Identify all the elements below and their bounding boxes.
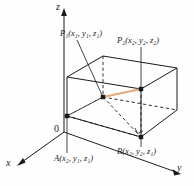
point-marker-b <box>139 135 143 139</box>
segment-p1-to-b <box>103 97 141 137</box>
point-label-p1: P₁(x₁, y₁, z₁) <box>60 29 102 38</box>
box-edge-top-back <box>103 56 177 68</box>
point-marker-a <box>65 114 69 118</box>
segment-p1-to-p2-highlight <box>103 89 141 97</box>
box-edge-bottom-right-slant <box>141 110 177 137</box>
point-label-p2: P₂(x₂, y₂, z₂) <box>117 36 159 45</box>
x-axis-arrowhead <box>17 158 26 166</box>
z-axis-arrowhead <box>61 8 67 16</box>
box-solid-edges-group <box>67 56 177 137</box>
box-hidden-edge-bottom-back <box>103 97 177 110</box>
leader-line-p1 <box>77 40 102 95</box>
point-label-a: A(x₂, y₁, z₁) <box>54 154 93 163</box>
right-angle-marker-group <box>135 128 143 134</box>
x-axis-label: x <box>6 158 10 168</box>
figure-canvas: z y x 0 P₁(x₁, y₁, z₁) P₂(x₂, y₂, z₂) A(… <box>0 0 194 186</box>
box-edge-top-left-slant <box>67 56 103 77</box>
y-axis-label: y <box>177 163 181 173</box>
vertex-dots-group <box>65 87 143 139</box>
box-edge-top-right-slant <box>141 68 177 89</box>
z-axis-label: z <box>56 2 60 12</box>
right-angle-marker-at-b <box>135 128 143 134</box>
point-marker-p2 <box>139 87 143 91</box>
box-edge-front-top <box>67 77 141 89</box>
origin-label: 0 <box>54 124 59 134</box>
point-marker-p1 <box>101 95 105 99</box>
point-label-b: B(x₂, y₂, z₁) <box>117 147 156 156</box>
